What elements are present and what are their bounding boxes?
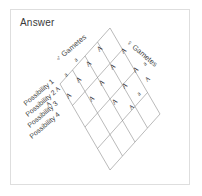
female-gamete-alleles: a A a A: [127, 59, 151, 110]
cell-letter: A: [87, 94, 97, 104]
cell-letter: A: [97, 78, 107, 88]
male-gametes-label: Gametes: [59, 32, 88, 58]
punnett-square-diagram: A A A A A A A A A A A a a A A a A a A: [0, 0, 202, 196]
cell-letter: A: [84, 59, 94, 69]
screenshot-root: Answer A A A A A A A A A: [0, 0, 202, 196]
svg-text:♀ Gametes: ♀ Gametes: [125, 38, 160, 69]
male-allele: a: [62, 70, 69, 77]
female-allele: a: [135, 89, 142, 96]
cell-letter: A: [119, 46, 129, 56]
cell-letter: A: [64, 91, 74, 101]
cell-letter: A: [110, 97, 120, 107]
svg-text:♂ Gametes: ♂ Gametes: [54, 32, 89, 63]
cell-letter: A: [108, 62, 118, 72]
male-gametes-axis: ♂ Gametes: [54, 32, 89, 63]
cell-letter: A: [74, 75, 84, 85]
female-allele: A: [143, 74, 151, 83]
male-allele: a: [72, 55, 79, 62]
female-allele: A: [127, 102, 135, 111]
female-gametes-axis: ♀ Gametes: [125, 38, 160, 69]
cell-letter: A: [120, 81, 130, 91]
